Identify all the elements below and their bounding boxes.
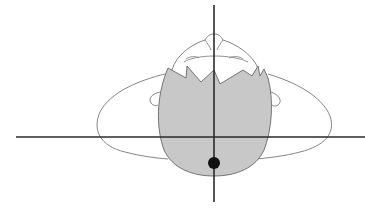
figure-canvas: [0, 0, 365, 216]
reference-point-marker: [208, 157, 220, 169]
head-axes-diagram: [0, 0, 365, 216]
